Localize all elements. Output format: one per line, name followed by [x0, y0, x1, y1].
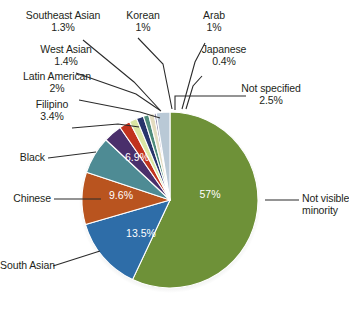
leader-line-black: [48, 152, 96, 158]
callout-south-asian: South Asian: [0, 260, 50, 272]
callout-southeast-asian-value: 1.3%: [8, 22, 118, 34]
callout-west-asian-value: 1.4%: [18, 56, 114, 68]
callout-not-specified: Not specified 2.5%: [225, 83, 317, 106]
callout-filipino-name: Filipino: [36, 98, 68, 110]
callout-southeast-asian: Southeast Asian 1.3%: [8, 10, 118, 33]
callout-not-visible-minority-name: Not visible: [302, 192, 349, 204]
callout-korean-value: 1%: [113, 22, 173, 34]
callout-west-asian-name: West Asian: [40, 43, 91, 55]
slice-label-chinese: 9.6%: [100, 190, 142, 201]
slice-label-south-asian: 13.5%: [117, 228, 165, 239]
callout-not-visible-minority: Not visible minority: [302, 193, 348, 216]
callout-not-specified-value: 2.5%: [225, 95, 317, 107]
callout-black-name: Black: [20, 151, 45, 163]
leader-line-south-asian: [53, 251, 100, 266]
callout-black: Black: [0, 152, 45, 164]
callout-filipino: Filipino 3.4%: [17, 99, 87, 122]
callout-korean-name: Korean: [126, 9, 159, 21]
callout-latin-american-name: Latin American: [23, 70, 91, 82]
callout-japanese-name: Japanese: [202, 43, 247, 55]
callout-southeast-asian-name: Southeast Asian: [26, 9, 100, 21]
callout-arab: Arab 1%: [186, 10, 242, 33]
callout-chinese: Chinese: [0, 193, 51, 205]
leader-line-japanese: [186, 76, 202, 109]
callout-korean: Korean 1%: [113, 10, 173, 33]
callout-not-visible-minority-value: minority: [302, 205, 348, 217]
callout-not-specified-name: Not specified: [241, 82, 300, 94]
slice-label-not-visible-minority: 57%: [189, 189, 231, 200]
callout-west-asian: West Asian 1.4%: [18, 44, 114, 67]
callout-latin-american: Latin American 2%: [5, 71, 109, 94]
slice-label-black: 6.9%: [116, 152, 158, 163]
callout-japanese: Japanese 0.4%: [186, 44, 262, 67]
callout-latin-american-value: 2%: [5, 83, 109, 95]
callout-arab-value: 1%: [186, 22, 242, 34]
callout-filipino-value: 3.4%: [17, 111, 87, 123]
callout-japanese-value: 0.4%: [186, 56, 262, 68]
callout-arab-name: Arab: [203, 9, 225, 21]
callout-south-asian-name: South Asian: [0, 259, 55, 271]
callout-chinese-name: Chinese: [13, 192, 51, 204]
